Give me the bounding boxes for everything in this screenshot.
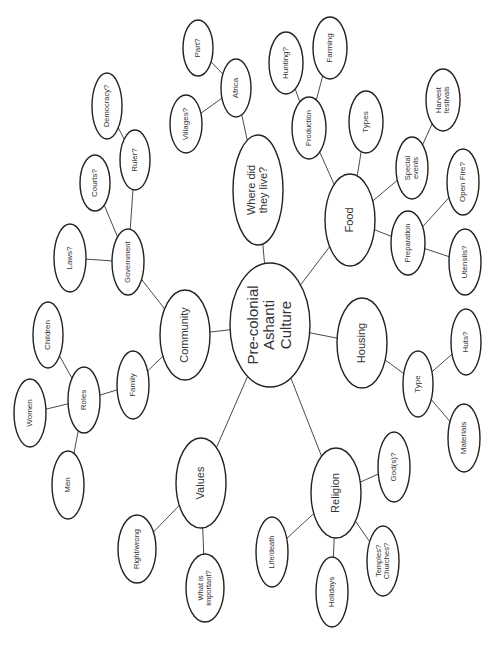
node-farming: Farming [313,17,347,79]
node-courts: Courts? [80,155,110,211]
node-men: Men [52,451,84,519]
node-label: Holidays [327,577,336,608]
node-label: Types [361,111,370,132]
node-label: Preparation [403,224,412,263]
node-label: Women [25,399,34,426]
node-label: Food [343,207,355,232]
node-community: Community [160,290,210,380]
node-rightwrong: Right/wrong [118,515,156,583]
node-center: Pre-colonialAshantiCulture [230,263,310,387]
node-preparation: Preparation [391,211,425,275]
node-family: Family [117,351,149,419]
node-label: Family [128,373,137,397]
node-label: Huts? [461,331,470,352]
node-label: Part? [193,38,202,58]
node-layer: Pre-colonialAshantiCultureWhere didthey … [14,17,481,627]
node-religion: Religion [311,448,361,538]
node-label: Laws? [65,246,74,270]
node-openfire: Open Fire? [447,149,479,215]
node-values: Values [176,438,226,528]
node-production: Production [292,97,326,159]
node-label: Children [43,320,52,350]
node-label: Type [413,375,422,393]
mind-map-svg: Pre-colonialAshantiCultureWhere didthey … [0,0,500,650]
node-democracy: Democracy? [92,73,122,139]
node-label: Values [194,466,206,499]
node-women: Women [14,379,46,447]
node-laws: Laws? [54,224,86,292]
node-holidays: Holidays [316,557,348,627]
node-where: Where didthey live? [233,135,283,245]
node-harvest: Harvestfestivals [426,69,460,131]
node-food: Food [325,174,375,266]
node-label: God(s)? [389,452,398,481]
node-label: Democracy? [102,85,111,127]
node-hunting: Hunting? [269,32,303,94]
node-ruler: Ruler? [120,130,150,190]
node-label: Where didthey live? [245,165,269,215]
node-label: Roles [79,390,88,410]
node-label: Africa [231,77,240,98]
node-temples: Temples?Churches? [367,526,399,596]
node-children: Children [33,302,63,368]
node-label: Ruler? [130,148,139,172]
node-label: Hunting? [281,46,290,79]
node-label: What isimportant? [196,570,213,605]
node-lifedeath: Life/death [256,517,288,587]
node-government: Government [112,229,144,295]
node-part: Part? [183,20,213,76]
node-gods: God(s)? [378,432,410,502]
node-materials: Materials [448,404,480,472]
node-label: Religion [329,473,341,513]
node-label: Life/death [267,536,276,569]
node-housing: Housing [337,298,387,388]
node-villages: Villages? [170,95,202,153]
node-label: Materials [459,422,468,454]
node-label: Temples?Churches? [374,543,391,579]
node-utensils: Utensils? [449,229,481,295]
node-label: Housing [355,323,367,363]
node-label: Men [63,477,72,493]
node-label: Harvestfestivals [434,86,451,113]
node-label: Utensils? [460,245,469,278]
node-label: Open Fire? [458,161,467,202]
node-huts: Huts? [451,309,481,375]
node-roles: Roles [68,367,100,433]
node-label: Production [304,110,313,146]
node-label: Government [123,240,132,282]
node-label: Villages? [181,107,190,140]
node-africa: Africa [221,59,251,117]
node-label: Right/wrong [132,529,141,569]
node-label: Specialevents [403,155,420,180]
node-important: What isimportant? [186,554,224,622]
node-label: Courts? [90,168,99,197]
node-label: Farming [325,33,334,62]
node-special: Specialevents [396,137,428,199]
node-types: Types [349,91,383,153]
mind-map-canvas: Pre-colonial Ashanti Culture Pre-colonia… [0,0,500,650]
node-type: Type [403,351,433,417]
node-label: Community [178,307,190,363]
